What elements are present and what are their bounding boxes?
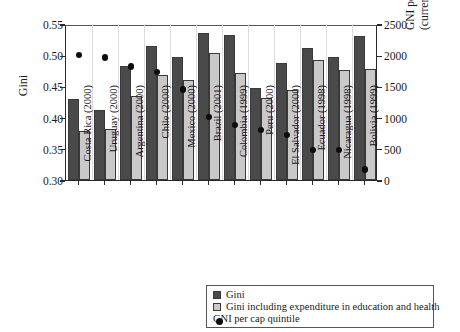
category-tick-mark (312, 181, 313, 185)
category-label-text: Brazil (2001) (212, 85, 223, 185)
right-axis-tick-label: 2000 (384, 50, 424, 62)
legend-item-label: GNI per cap quintile (213, 314, 300, 325)
legend-item: Gini including expenditure in education … (213, 301, 427, 313)
legend-item: GNI per cap quintile (213, 314, 427, 326)
legend-item-label: Gini (226, 290, 245, 301)
left-axis-tick-label: 0.40 (29, 113, 63, 125)
category-label: Costa Rica (2000) (82, 85, 93, 185)
right-axis-tick-label: 0 (384, 175, 424, 187)
category-label: Nicaragua (1998) (342, 85, 353, 185)
right-axis-tick-mark (377, 180, 382, 181)
legend: GiniGini including expenditure in educat… (206, 285, 434, 328)
category-label: Ecuador (1998) (316, 85, 327, 185)
right-axis-tick-mark (377, 149, 382, 150)
right-axis-tick-label: 1000 (384, 113, 424, 125)
category-label: Peru (2000) (264, 85, 275, 185)
bar-gini (224, 35, 235, 180)
category-label: Colombia (1999) (238, 85, 249, 185)
bar-gini (250, 88, 261, 180)
category-label-text: Chile (2000) (160, 85, 171, 185)
left-axis-tick-label: 0.50 (29, 50, 63, 62)
bar-gini (146, 46, 157, 180)
category-label-text: Argentina (2000) (134, 85, 145, 185)
category-label: Chile (2000) (160, 85, 171, 185)
left-axis-tick-mark (60, 24, 65, 25)
category-tick-mark (78, 181, 79, 185)
right-axis-tick-mark (377, 24, 382, 25)
left-axis-tick-mark (60, 118, 65, 119)
bar-gini (120, 66, 131, 180)
left-axis-tick-label: 0.35 (29, 144, 63, 156)
point-gni-per-cap-quintile (128, 63, 135, 70)
category-tick-mark (338, 181, 339, 185)
right-axis-tick-label: 1500 (384, 81, 424, 93)
bar-gini (172, 57, 183, 180)
bar-gini (94, 110, 105, 180)
category-tick-mark (260, 181, 261, 185)
left-axis-tick-mark (60, 87, 65, 88)
chart-figure: Gini GNI per cap PPP (current internatio… (0, 0, 460, 332)
category-axis-labels: Costa Rica (2000)Uruguay (2000)Argentina… (65, 181, 377, 277)
bar-gini (68, 99, 79, 180)
point-gni-per-cap-quintile (76, 52, 83, 59)
left-axis-tick-label: 0.45 (29, 81, 63, 93)
left-axis-tick-mark (60, 180, 65, 181)
category-label: Argentina (2000) (134, 85, 145, 185)
category-label-text: Ecuador (1998) (316, 85, 327, 185)
left-axis-tick-label: 0.55 (29, 19, 63, 31)
bar-gini (198, 33, 209, 180)
square-light-icon (213, 303, 221, 311)
bar-gini (354, 36, 365, 180)
bar-gini (328, 57, 339, 180)
category-label: El Salvador (2000) (290, 85, 301, 185)
category-label-text: Uruguay (2000) (108, 85, 119, 185)
right-axis-tick-mark (377, 87, 382, 88)
category-label-text: Nicaragua (1998) (342, 85, 353, 185)
category-label-text: Mexico (2000) (186, 85, 197, 185)
bar-gini (302, 48, 313, 180)
left-axis-tick-mark (60, 56, 65, 57)
right-axis-tick-mark (377, 118, 382, 119)
filled-circle-icon (216, 318, 223, 325)
category-label-text: El Salvador (2000) (290, 85, 301, 185)
category-tick-mark (156, 181, 157, 185)
category-tick-mark (182, 181, 183, 185)
point-gni-per-cap-quintile (102, 54, 109, 61)
left-axis-tick-label: 0.30 (29, 175, 63, 187)
right-axis-tick-label: 500 (384, 144, 424, 156)
square-dark-icon (213, 291, 221, 299)
category-tick-mark (364, 181, 365, 185)
category-tick-mark (208, 181, 209, 185)
legend-item: Gini (213, 289, 427, 301)
right-axis-tick-label: 2500 (384, 19, 424, 31)
bar-gini (276, 63, 287, 180)
category-tick-mark (104, 181, 105, 185)
category-tick-mark (130, 181, 131, 185)
left-axis-tick-mark (60, 149, 65, 150)
legend-item-label: Gini including expenditure in education … (226, 302, 439, 313)
category-label: Uruguay (2000) (108, 85, 119, 185)
category-label-text: Peru (2000) (264, 85, 275, 185)
category-tick-mark (234, 181, 235, 185)
category-label: Brazil (2001) (212, 85, 223, 185)
right-axis-tick-mark (377, 56, 382, 57)
category-tick-mark (286, 181, 287, 185)
category-label-text: Costa Rica (2000) (82, 85, 93, 185)
category-label-text: Colombia (1999) (238, 85, 249, 185)
category-label-text: Bolivia (1999) (368, 85, 379, 185)
category-label: Bolivia (1999) (368, 85, 379, 185)
category-label: Mexico (2000) (186, 85, 197, 185)
